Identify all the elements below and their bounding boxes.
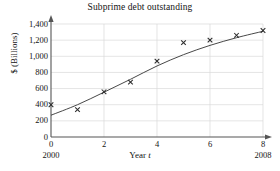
data-point-marker	[234, 33, 239, 38]
data-point-marker	[128, 80, 133, 85]
data-point-marker	[181, 40, 186, 45]
gridlines	[51, 24, 263, 137]
data-point-marker	[75, 107, 80, 112]
plot-area	[0, 0, 280, 171]
chart-figure: Subprime debt outstanding $ (Billions) 0…	[0, 0, 280, 171]
